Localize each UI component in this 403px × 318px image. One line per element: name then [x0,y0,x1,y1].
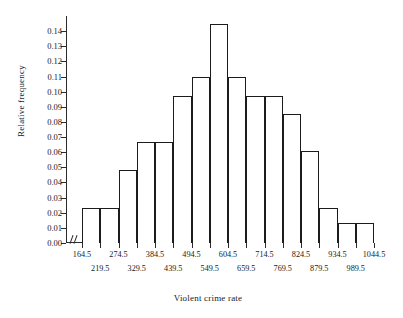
x-tick [374,243,375,248]
x-tick-label: 989.5 [347,264,365,273]
x-tick-label: 549.5 [201,264,219,273]
histogram-bar [100,208,118,243]
y-tick-label: 0.13 [47,41,62,51]
x-tick [192,243,193,248]
histogram-bar [319,208,337,243]
y-tick-label: 0.09 [47,102,62,112]
histogram-figure: Relative frequency Violent crime rate 0.… [0,0,403,318]
histogram-bar [283,114,301,243]
histogram-bar [228,77,246,243]
x-tick [319,243,320,248]
plot-area: 0.000.010.020.030.040.050.060.070.080.09… [66,16,374,243]
y-tick-label: 0.12 [47,56,62,66]
x-tick [246,243,247,248]
x-tick-label: 219.5 [91,264,109,273]
histogram-bar [265,96,283,243]
y-axis-title: Relative frequency [16,36,26,166]
x-tick-label: 714.5 [255,250,273,259]
x-tick [82,243,83,248]
x-tick [338,243,339,248]
y-tick-label: 0.14 [47,26,62,36]
histogram-bar [173,96,191,243]
x-tick [100,243,101,248]
histogram-bar [338,223,356,243]
histogram-bar [119,170,137,243]
x-tick [119,243,120,248]
x-tick [265,243,266,248]
y-tick-label: 0.03 [47,193,62,203]
y-tick-label: 0.00 [47,238,62,248]
x-tick-label: 494.5 [182,250,200,259]
histogram-bar [137,142,155,243]
histogram-bar [301,151,319,243]
x-tick-label: 879.5 [310,264,328,273]
y-tick-label: 0.07 [47,132,62,142]
y-tick-label: 0.04 [47,177,62,187]
x-tick-label: 1044.5 [363,250,386,259]
x-tick [173,243,174,248]
y-axis-line [66,16,67,243]
y-tick-label: 0.06 [47,147,62,157]
x-tick-label: 274.5 [109,250,127,259]
x-tick-label: 329.5 [128,264,146,273]
histogram-bar [155,142,173,243]
x-tick [210,243,211,248]
x-tick [301,243,302,248]
y-tick-label: 0.01 [47,223,62,233]
histogram-bar [82,208,100,243]
x-tick-label: 769.5 [274,264,292,273]
x-tick [283,243,284,248]
x-tick [137,243,138,248]
x-tick [356,243,357,248]
x-tick-label: 164.5 [73,250,91,259]
histogram-bar [210,24,228,243]
histogram-bar [246,96,264,243]
x-tick-label: 439.5 [164,264,182,273]
x-tick-label: 604.5 [219,250,237,259]
y-tick-label: 0.08 [47,117,62,127]
y-tick-label: 0.02 [47,208,62,218]
x-tick-label: 659.5 [237,264,255,273]
x-tick-label: 824.5 [292,250,310,259]
y-tick-label: 0.11 [47,72,62,82]
x-tick [228,243,229,248]
histogram-bar [192,77,210,243]
histogram-bar [356,223,374,243]
y-tick-label: 0.10 [47,87,62,97]
x-axis-title: Violent crime rate [128,293,288,303]
x-tick [155,243,156,248]
x-tick-label: 934.5 [328,250,346,259]
y-tick-label: 0.05 [47,162,62,172]
x-tick-label: 384.5 [146,250,164,259]
